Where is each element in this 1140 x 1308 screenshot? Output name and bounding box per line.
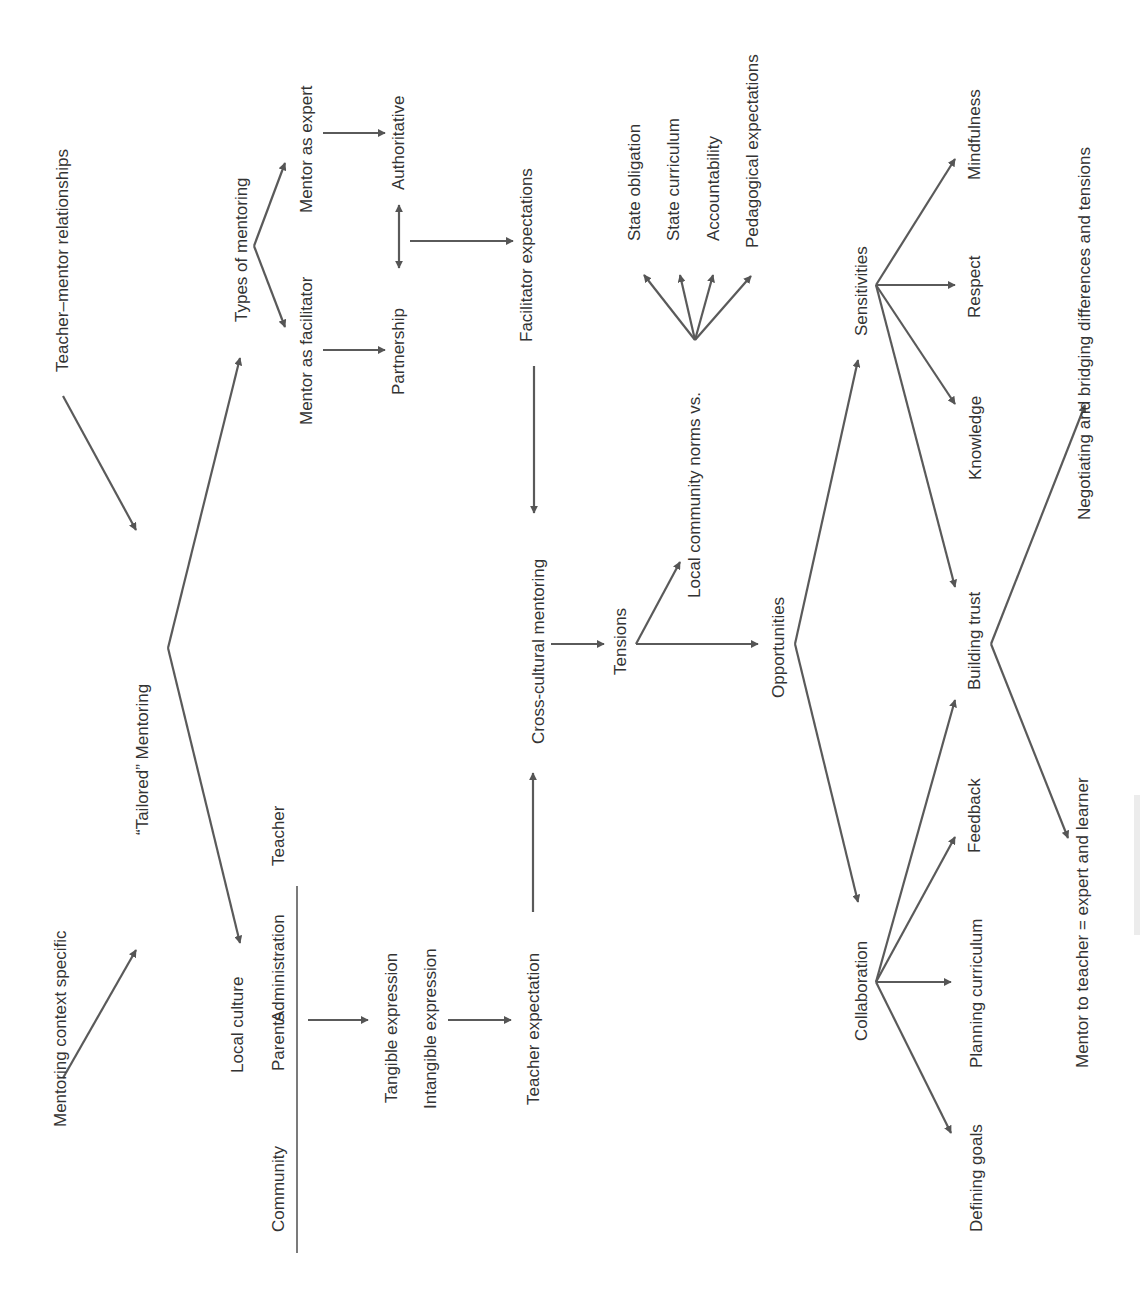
edge-tailored-mentoring-to-types-of-mentoring <box>168 358 240 648</box>
node-teacher-mentor-relationships: Teacher–mentor relationships <box>53 149 72 372</box>
node-building-trust: Building trust <box>965 591 984 690</box>
edge-sensitivities-to-knowledge <box>876 285 955 404</box>
edge-collaboration-to-defining-goals <box>876 982 951 1133</box>
edge-teacher-mentor-relationships-to-tailored-mentoring <box>63 396 136 530</box>
concept-map-diagram: Teacher–mentor relationshipsMentoring co… <box>0 0 1140 1308</box>
node-local-community-norms: Local community norms vs. <box>685 392 704 598</box>
node-pedagogical-expectations: Pedagogical expectations <box>743 54 762 248</box>
node-teacher: Teacher <box>269 805 288 866</box>
node-types-of-mentoring: Types of mentoring <box>232 177 251 322</box>
edge-opportunities-to-sensitivities <box>795 360 858 644</box>
scrollbar-strip <box>1134 795 1140 935</box>
node-planning-curriculum: Planning curriculum <box>967 919 986 1068</box>
node-facilitator-expectations: Facilitator expectations <box>517 168 536 342</box>
node-collaboration: Collaboration <box>852 941 871 1041</box>
node-tangible-expression: Tangible expression <box>382 953 401 1103</box>
edge-types-of-mentoring-to-mentor-as-facilitator <box>254 246 285 327</box>
node-feedback: Feedback <box>965 778 984 853</box>
node-mentoring-context-specific: Mentoring context specific <box>51 930 70 1127</box>
node-opportunities: Opportunities <box>769 597 788 698</box>
node-state-curriculum: State curriculum <box>664 118 683 241</box>
node-administration: Administration <box>269 914 288 1022</box>
node-defining-goals: Defining goals <box>967 1124 986 1232</box>
edges-layer <box>63 133 1085 1133</box>
edge-sensitivities-to-mindfulness <box>876 159 955 285</box>
node-local-culture: Local culture <box>228 977 247 1073</box>
node-mentor-as-expert: Mentor as expert <box>297 85 316 213</box>
node-accountability: Accountability <box>704 136 723 241</box>
edge-types-of-mentoring-to-mentor-as-expert <box>254 163 285 246</box>
node-mindfulness: Mindfulness <box>965 89 984 180</box>
node-cross-cultural-mentoring: Cross-cultural mentoring <box>529 559 548 744</box>
edge-mentoring-context-specific-to-tailored-mentoring <box>63 950 136 1078</box>
edge-sensitivities-to-building-trust <box>876 285 955 587</box>
node-tensions: Tensions <box>611 608 630 675</box>
node-respect: Respect <box>965 255 984 318</box>
node-community: Community <box>269 1146 288 1232</box>
node-authoritative: Authoritative <box>389 96 408 191</box>
node-state-obligation: State obligation <box>625 124 644 241</box>
node-negotiating-bridging: Negotiating and bridging differences and… <box>1075 147 1094 520</box>
node-sensitivities: Sensitivities <box>852 246 871 336</box>
edge-tensions-to-local-community-norms <box>636 562 680 644</box>
node-teacher-expectation: Teacher expectation <box>524 953 543 1105</box>
edge-tailored-mentoring-to-local-culture <box>168 648 240 943</box>
edge-building-trust-to-negotiating-bridging <box>991 405 1085 644</box>
node-partnership: Partnership <box>389 308 408 395</box>
edge-collaboration-to-feedback <box>876 837 955 982</box>
edge-collaboration-to-building-trust <box>876 700 955 982</box>
node-tailored-mentoring: “Tailored” Mentoring <box>133 684 152 835</box>
edge-opportunities-to-collaboration <box>795 644 858 902</box>
node-intangible-expression: Intangible expression <box>421 948 440 1109</box>
edge-building-trust-to-mentor-to-teacher <box>991 644 1068 838</box>
node-knowledge: Knowledge <box>966 396 985 480</box>
node-mentor-as-facilitator: Mentor as facilitator <box>297 276 316 425</box>
node-mentor-to-teacher: Mentor to teacher = expert and learner <box>1073 777 1092 1068</box>
